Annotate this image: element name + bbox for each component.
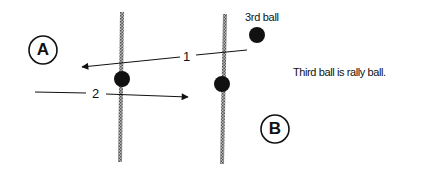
rally-ball-note: Third ball is rally ball. bbox=[293, 66, 386, 78]
divider-line-1 bbox=[120, 12, 122, 162]
player-b-label: B bbox=[267, 119, 283, 139]
diagram-canvas bbox=[0, 0, 436, 171]
path-2-label: 2 bbox=[92, 86, 99, 101]
ball-2 bbox=[214, 76, 230, 92]
path-2-line-left bbox=[35, 92, 86, 93]
ball-3 bbox=[249, 27, 265, 43]
path-1-arrow bbox=[82, 57, 180, 67]
player-a-label: A bbox=[35, 40, 51, 60]
path-2-arrow bbox=[106, 94, 188, 97]
ball-1 bbox=[114, 71, 130, 87]
path-1-line-right bbox=[196, 50, 247, 55]
third-ball-label: 3rd ball bbox=[245, 11, 279, 23]
path-1-label: 1 bbox=[183, 49, 190, 64]
